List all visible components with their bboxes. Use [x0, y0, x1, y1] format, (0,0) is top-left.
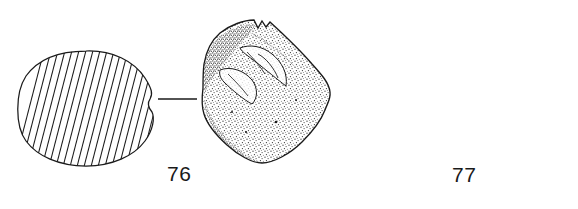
figure-label-76: 76	[167, 162, 191, 186]
artifact-plate	[0, 0, 578, 209]
figure-label-77: 77	[452, 163, 476, 187]
